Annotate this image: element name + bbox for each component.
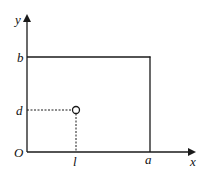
x-axis-label: x [189, 154, 196, 169]
tick-label-l: l [73, 154, 77, 169]
point-marker [73, 107, 80, 114]
coordinate-diagram: y b d O l a x [0, 0, 209, 179]
y-axis-label: y [13, 12, 21, 27]
origin-label: O [14, 145, 24, 160]
tick-label-b: b [17, 50, 24, 65]
tick-label-d: d [16, 103, 23, 118]
tick-label-a: a [145, 152, 152, 167]
